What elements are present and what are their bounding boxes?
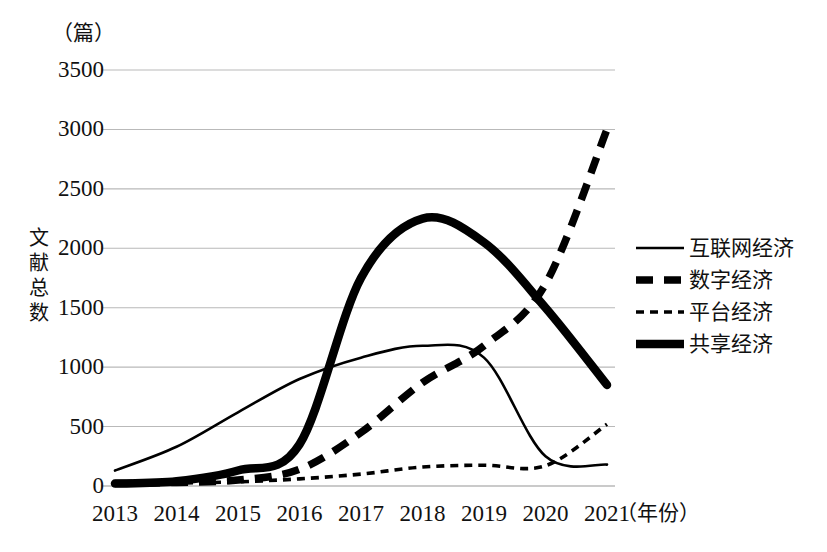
x-tick-label: 2018 [400, 501, 446, 526]
legend-item-2: 数字经济 [635, 264, 825, 296]
legend-item-3: 平台经济 [635, 296, 825, 328]
legend-item-1: 互联网经济 [635, 232, 825, 264]
legend-swatch-icon [635, 337, 685, 351]
legend-swatch-icon [635, 305, 685, 319]
legend-item-4: 共享经济 [635, 328, 825, 360]
chart-figure: （篇） 文献总数 0500100015002000250030003500 20… [0, 0, 827, 552]
x-tick-label: 2017 [338, 501, 384, 526]
x-tick-label: 2013 [92, 501, 138, 526]
legend-swatch-icon [635, 241, 685, 255]
legend-label: 平台经济 [689, 302, 773, 323]
legend-label: 数字经济 [689, 270, 773, 291]
legend-label: 共享经济 [689, 334, 773, 355]
x-tick-label: 2019 [461, 501, 507, 526]
x-tick-label: 2016 [277, 501, 323, 526]
legend-label: 互联网经济 [689, 238, 794, 259]
x-axis-title: （年份） [616, 501, 700, 526]
chart-legend: 互联网经济数字经济平台经济共享经济 [635, 232, 825, 360]
legend-swatch-icon [635, 273, 685, 287]
x-tick-label: 2015 [215, 501, 261, 526]
x-tick-label: 2020 [523, 501, 569, 526]
x-tick-label: 2014 [154, 501, 200, 526]
